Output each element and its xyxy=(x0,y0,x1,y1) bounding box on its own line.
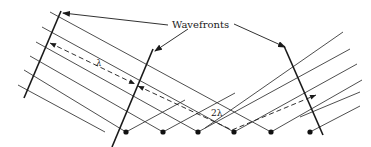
scatter-point xyxy=(123,129,128,134)
incident-rays xyxy=(18,12,271,132)
wavefront-pointer-arrow xyxy=(63,13,168,25)
incident-ray xyxy=(36,42,198,132)
scatter-points xyxy=(123,129,312,134)
scatter-point xyxy=(231,129,236,134)
wavefront-incident-middle xyxy=(112,49,153,147)
incident-ray xyxy=(50,12,271,132)
wavelength-label: λ xyxy=(95,58,102,68)
incident-ray xyxy=(18,85,105,132)
reflected-ray xyxy=(205,32,343,128)
scatter-point xyxy=(268,129,273,134)
wavefront-pointer-arrow xyxy=(155,29,188,51)
arrowhead-icon xyxy=(310,93,317,100)
path-difference xyxy=(49,41,317,130)
double-wavelength-label: 2λ xyxy=(211,108,223,118)
scatter-point xyxy=(307,129,312,134)
scatter-point xyxy=(195,129,200,134)
wavefront-pointer-arrow xyxy=(234,24,285,47)
arrowhead-icon xyxy=(49,41,57,48)
incident-ray xyxy=(24,70,126,132)
scatter-point xyxy=(160,129,165,134)
lambda-dashed-line xyxy=(50,43,135,84)
wavefront-incident-left xyxy=(24,11,61,98)
reflected-ray xyxy=(198,49,350,132)
diffraction-diagram: Wavefronts λ 2λ xyxy=(0,0,371,147)
wavefronts-label: Wavefronts xyxy=(172,19,229,30)
diagram-canvas: Wavefronts λ 2λ xyxy=(0,0,371,147)
reflected-ray xyxy=(271,80,362,132)
arrowhead-icon xyxy=(129,79,137,86)
